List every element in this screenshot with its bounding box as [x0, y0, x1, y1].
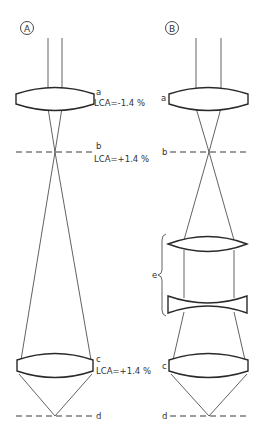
ray-bb-e-left — [184, 152, 209, 240]
optical-diagram: A a LCA=-1.4 % b LCA=+1.4 % c LCA — [0, 0, 265, 442]
lens-e2-concave — [168, 296, 247, 313]
label-d: d — [96, 411, 101, 421]
label-b-b: b — [162, 147, 167, 157]
ray-bc-d-left — [171, 374, 209, 416]
diagram-canvas: A a LCA=-1.4 % b LCA=+1.4 % c LCA — [0, 0, 265, 442]
label-b-a: a — [161, 93, 166, 103]
ray-bb-e-right — [209, 152, 234, 240]
lens-b-a — [169, 88, 248, 111]
panel-b: B a b — [152, 22, 248, 422]
ray-a-b-left — [48, 108, 55, 152]
panel-b-badge-text: B — [169, 24, 175, 34]
label-a: a — [96, 87, 101, 97]
ray-ba-b-left — [196, 108, 209, 152]
lens-a — [16, 88, 94, 111]
ray-bc-d-right — [209, 374, 247, 416]
ray-b-c-right — [55, 152, 91, 360]
label-b: b — [96, 141, 101, 151]
label-b-d: d — [162, 411, 167, 421]
label-c: c — [96, 354, 101, 364]
lens-group-brace — [158, 234, 166, 316]
label-b-c: c — [162, 361, 167, 371]
lens-b-c — [169, 354, 248, 378]
ray-e-c-right — [234, 312, 245, 360]
ray-c-d-right — [55, 374, 92, 416]
ray-a-b-right — [55, 108, 62, 152]
label-e: e — [152, 270, 157, 280]
lca-b: LCA=+1.4 % — [94, 154, 149, 164]
ray-ba-b-right — [209, 108, 221, 152]
lens-e1-convex — [168, 237, 247, 252]
lca-a: LCA=-1.4 % — [94, 98, 145, 108]
panel-a-badge-text: A — [24, 24, 31, 34]
ray-b-c-left — [21, 152, 55, 360]
panel-a: A a LCA=-1.4 % b LCA=+1.4 % c LCA — [16, 22, 151, 422]
lens-c — [17, 354, 93, 378]
lca-c: LCA=+1.4 % — [96, 366, 151, 376]
ray-c-d-left — [19, 374, 55, 416]
ray-e-c-left — [173, 312, 184, 360]
